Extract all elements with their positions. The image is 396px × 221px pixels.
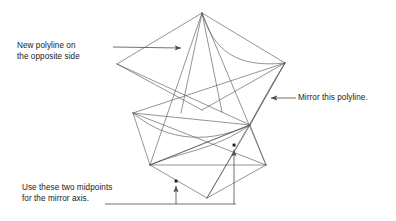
- new-polyline-leader: [113, 47, 181, 48]
- callout-new-polyline: New polyline on the opposite side: [17, 41, 113, 62]
- midpoint-right-marker: [233, 144, 236, 147]
- upper-spine-right: [202, 13, 222, 112]
- lower-base-left-bottom: [150, 165, 207, 198]
- upper-left-edge: [117, 13, 202, 64]
- upper-left-lower-edge: [117, 64, 202, 110]
- callout-midpoints: Use these two midpoints for the mirror a…: [22, 183, 140, 204]
- lower-base-right-bottom: [207, 165, 266, 198]
- midpoint-left-marker: [175, 180, 178, 183]
- lower-mid-to-lowright: [250, 125, 266, 165]
- connector-right-upper: [133, 63, 285, 113]
- lower-left-upper-edge: [133, 113, 150, 165]
- upper-diag-left: [150, 13, 202, 165]
- upper-right-edge: [202, 13, 285, 63]
- lower-left-to-mid: [133, 113, 250, 125]
- upper-diag-right: [202, 13, 266, 165]
- connector-group: [117, 63, 285, 198]
- upper-polyline-group: [117, 13, 285, 165]
- callout-mirror-polyline: Mirror this polyline.: [298, 93, 394, 104]
- diagram-canvas: New polyline on the opposite side Mirror…: [0, 0, 396, 221]
